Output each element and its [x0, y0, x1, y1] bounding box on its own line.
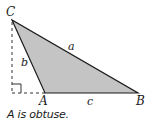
vertex-label-c: C [6, 5, 15, 19]
right-angle-marker [12, 84, 21, 93]
vertex-label-a: A [38, 94, 48, 108]
side-label-a: a [68, 40, 75, 53]
triangle-abc [12, 20, 138, 93]
caption: A is obtuse. [7, 108, 69, 121]
obtuse-triangle-diagram: C A B a b c [0, 0, 152, 123]
side-label-c: c [87, 95, 93, 108]
vertex-label-b: B [135, 94, 145, 108]
side-label-b: b [21, 56, 28, 69]
